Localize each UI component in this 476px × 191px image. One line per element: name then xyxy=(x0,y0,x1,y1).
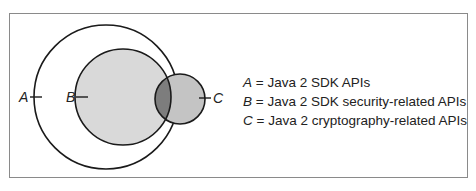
legend-key-b: B xyxy=(243,94,252,109)
legend-sep-a: = xyxy=(252,75,267,90)
legend-item-a: A = Java 2 SDK APIs xyxy=(243,73,467,92)
legend-text-a: Java 2 SDK APIs xyxy=(267,75,370,90)
legend-item-b: B = Java 2 SDK security-related APIs xyxy=(243,92,467,111)
legend-sep-c: = xyxy=(253,113,268,128)
legend-text-b: Java 2 SDK security-related APIs xyxy=(267,94,466,109)
legend-key-a: A xyxy=(243,75,252,90)
legend-text-c: Java 2 cryptography-related APIs xyxy=(268,113,467,128)
set-b-label: B xyxy=(66,89,75,105)
legend: A = Java 2 SDK APIs B = Java 2 SDK secur… xyxy=(243,73,467,130)
legend-key-c: C xyxy=(243,113,253,128)
legend-sep-b: = xyxy=(252,94,267,109)
set-a-label: A xyxy=(18,89,28,105)
legend-item-c: C = Java 2 cryptography-related APIs xyxy=(243,111,467,130)
set-c-label: C xyxy=(213,90,224,106)
